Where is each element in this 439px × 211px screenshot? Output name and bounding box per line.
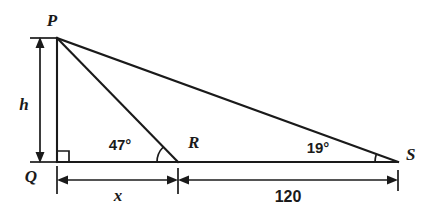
- vertex-label-Q: Q: [25, 167, 37, 186]
- angle-label-47: 47°: [109, 136, 132, 153]
- angle-arc-S: [375, 155, 376, 163]
- dimension-label-h: h: [19, 95, 28, 114]
- dimension-arrow-x-left: [57, 176, 68, 185]
- vertex-label-R: R: [187, 133, 199, 152]
- angle-arc-R: [157, 147, 163, 162]
- dimension-label-120: 120: [275, 188, 302, 205]
- vertex-label-P: P: [46, 11, 58, 30]
- geometry-figure: P Q R S 47° 19° h x 120: [0, 0, 439, 211]
- dimension-arrow-x-right: [167, 176, 178, 185]
- dimension-arrow-120-right: [387, 176, 398, 185]
- geometry-diagram-canvas: P Q R S 47° 19° h x 120: [0, 0, 439, 211]
- right-angle-marker-Q: [58, 151, 69, 162]
- vertex-label-S: S: [406, 145, 415, 164]
- dimension-arrow-120-left: [178, 176, 189, 185]
- dimension-label-x: x: [113, 186, 123, 205]
- angle-label-19: 19°: [307, 139, 330, 156]
